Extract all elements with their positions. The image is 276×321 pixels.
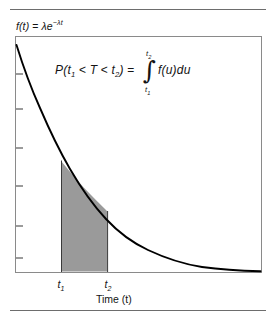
integral-lower-limit: t1 (145, 83, 151, 100)
figure-container: f(t) = λe−λt P(t (0, 0, 276, 321)
shaded-probability-area (62, 162, 108, 272)
x-tick-label-t1-sub: 1 (61, 285, 65, 292)
formula-lt-1: < (75, 63, 89, 77)
y-axis-exponent: −λt (53, 18, 63, 27)
probability-formula: P(t1 < T < t2) = t2∫t1f(u)du (55, 63, 191, 82)
formula-lead: P( (55, 63, 67, 77)
bottom-horizontal-rule (10, 310, 266, 311)
formula-integrand: f(u) (158, 63, 177, 77)
y-axis-equals: = (29, 20, 41, 32)
x-tick-label-t2-sub: 2 (108, 285, 112, 292)
formula-lt-2: < (97, 63, 111, 77)
y-axis-function-name: f(t) (16, 20, 29, 32)
y-axis-ticks (16, 74, 23, 258)
integral-lower-limit-sub: 1 (147, 89, 150, 95)
formula-equals: = (124, 63, 138, 77)
integral-group: t2∫t1 (138, 64, 158, 78)
formula-differential: du (177, 63, 191, 77)
top-horizontal-rule (10, 9, 266, 10)
x-axis-title: Time (t) (96, 293, 132, 305)
integral-sign: ∫ (143, 60, 156, 82)
x-tick-label-t1: t1 (53, 278, 69, 295)
y-axis-equation-label: f(t) = λe−λt (16, 16, 63, 33)
